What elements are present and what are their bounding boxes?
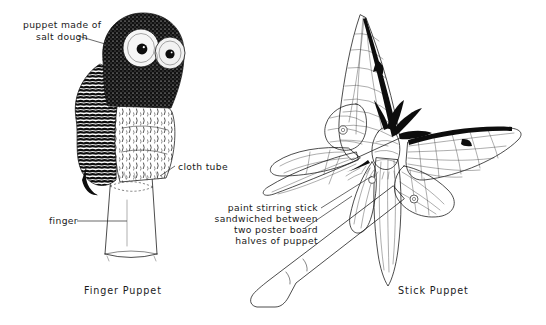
- moth-eyespot-left: [339, 126, 347, 134]
- caption-stick-puppet: Stick Puppet: [398, 285, 469, 296]
- figure-canvas: puppet made of salt dough cloth tube fin…: [0, 0, 546, 325]
- owl-pupil-right: [165, 49, 174, 58]
- label-salt-dough-line1: puppet made of: [23, 19, 102, 30]
- caption-finger-puppet: Finger Puppet: [84, 285, 162, 296]
- label-stick-line2: sandwiched between: [215, 213, 318, 224]
- moth-eyespot-right: [410, 195, 418, 203]
- label-cloth-tube: cloth tube: [178, 161, 228, 172]
- owl-pupil-left: [137, 44, 148, 55]
- label-stick-line4: halves of puppet: [235, 235, 318, 246]
- label-stick-line1: paint stirring stick: [228, 202, 318, 213]
- illustration-figure: puppet made of salt dough cloth tube fin…: [0, 0, 546, 325]
- label-salt-dough-line2: salt dough: [36, 31, 88, 42]
- label-stick-line3: two poster board: [234, 224, 318, 235]
- label-finger: finger: [49, 215, 78, 226]
